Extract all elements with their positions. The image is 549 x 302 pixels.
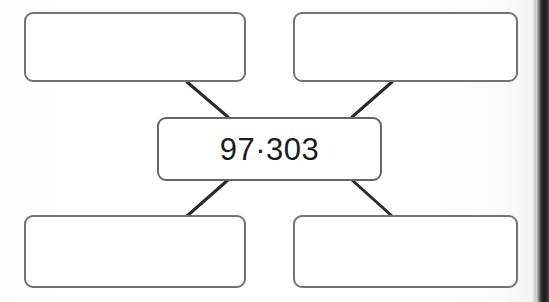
center-value-box[interactable]: 97·303	[157, 117, 382, 181]
center-value-text: 97·303	[220, 134, 320, 165]
connector-bottom-left	[187, 180, 228, 216]
scanned-page: 97·303	[0, 0, 549, 302]
connector-top-left	[187, 82, 228, 117]
connector-bottom-right	[352, 180, 392, 216]
bottom-right-answer-box[interactable]	[293, 215, 518, 288]
top-right-answer-box[interactable]	[293, 12, 518, 82]
connector-top-right	[352, 82, 392, 117]
top-left-answer-box[interactable]	[24, 12, 246, 82]
page-gutter-shadow	[536, 0, 549, 302]
bottom-left-answer-box[interactable]	[24, 215, 246, 288]
